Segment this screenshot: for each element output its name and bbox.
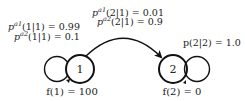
self-loop-2 [185, 57, 210, 82]
state-1-label: 1 [77, 63, 84, 76]
self-loop-1-label-line2: pa2(1|1) = 0.1 [14, 30, 80, 43]
state-1-reward: f(1) = 100 [46, 86, 98, 97]
state-2-label: 2 [170, 63, 177, 76]
transition-arc-1-to-2 [86, 38, 161, 57]
transition-1-to-2-label-line2: pa2(2|1) = 0.9 [97, 15, 163, 28]
state-2-reward: f(2) = 0 [163, 86, 202, 97]
self-loop-2-label: p(2|2) = 1.0 [183, 37, 241, 49]
mdp-diagram: 1 2 pa1(1|1) = 0.99 pa2(1|1) = 0.1 pa1(2… [0, 0, 245, 101]
self-loop-2-arrowhead [183, 80, 186, 84]
